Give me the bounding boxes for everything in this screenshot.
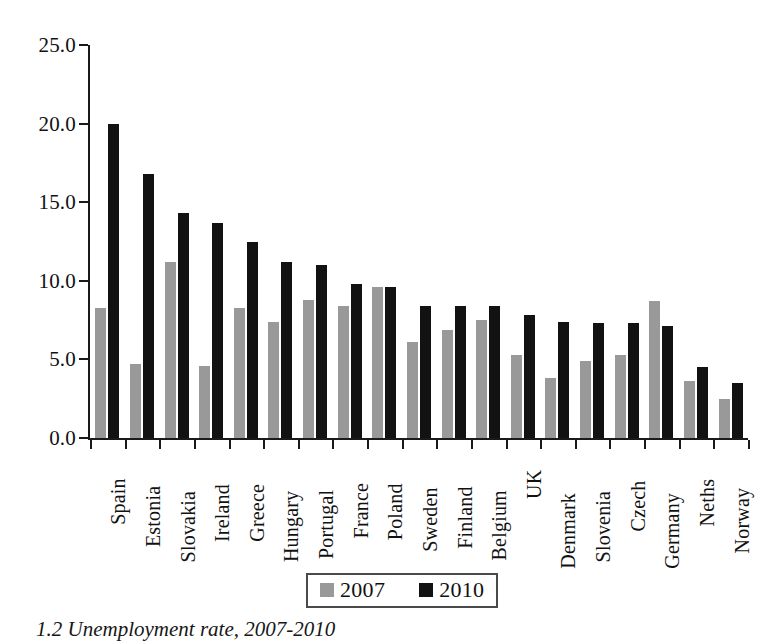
- legend-label-2010: 2010: [439, 578, 484, 602]
- bar-group: [298, 45, 333, 438]
- bar-group: [506, 45, 541, 438]
- bar-uk-2007: [511, 355, 522, 438]
- bar-finland-2010: [455, 306, 466, 438]
- x-tick-mark: [644, 440, 646, 449]
- bar-group: [125, 45, 160, 438]
- x-tick-slot: Neths: [679, 440, 714, 570]
- x-tick-slot: Portugal: [298, 440, 333, 570]
- bar-portugal-2010: [316, 265, 327, 438]
- x-tick-slot: France: [332, 440, 367, 570]
- x-tick-slot: Finland: [436, 440, 471, 570]
- x-tick-mark: [609, 440, 611, 449]
- x-tick-slot: Denmark: [540, 440, 575, 570]
- bar-group: [90, 45, 125, 438]
- y-tick-label: 5.0: [49, 344, 76, 374]
- bar-group: [332, 45, 367, 438]
- x-tick-slot: Germany: [644, 440, 679, 570]
- x-tick-mark: [402, 440, 404, 449]
- x-tick-slot: Sweden: [402, 440, 437, 570]
- figure-caption: 1.2 Unemployment rate, 2007-2010: [36, 616, 335, 642]
- bar-neths-2007: [684, 381, 695, 438]
- y-axis: 0.05.010.015.020.025.0: [0, 45, 88, 440]
- bar-czech-2007: [615, 355, 626, 438]
- x-tick-mark: [436, 440, 438, 449]
- x-axis: SpainEstoniaSlovakiaIrelandGreeceHungary…: [90, 440, 748, 570]
- bar-hungary-2007: [268, 322, 279, 438]
- bar-group: [194, 45, 229, 438]
- x-tick-slot: Ireland: [194, 440, 229, 570]
- bar-poland-2007: [372, 287, 383, 438]
- y-tick-mark: [79, 44, 88, 46]
- bar-group: [679, 45, 714, 438]
- x-tick-slot: Norway: [713, 440, 748, 570]
- y-tick-mark: [79, 437, 88, 439]
- x-tick-mark: [713, 440, 715, 449]
- bar-hungary-2010: [281, 262, 292, 438]
- bar-group: [471, 45, 506, 438]
- bar-group: [609, 45, 644, 438]
- x-tick-mark: [125, 440, 127, 449]
- bar-sweden-2007: [407, 342, 418, 438]
- legend-swatch-2010-icon: [419, 583, 433, 597]
- bar-spain-2010: [108, 124, 119, 438]
- y-tick-label: 10.0: [38, 266, 76, 296]
- bar-group: [263, 45, 298, 438]
- legend-label-2007: 2007: [340, 578, 385, 602]
- bar-greece-2010: [247, 242, 258, 439]
- bar-portugal-2007: [303, 300, 314, 438]
- x-tick-mark: [575, 440, 577, 449]
- legend-swatch-2007-icon: [320, 583, 334, 597]
- x-tick-mark: [229, 440, 231, 449]
- bar-france-2007: [338, 306, 349, 438]
- bar-slovakia-2010: [178, 213, 189, 438]
- bar-group: [436, 45, 471, 438]
- bar-greece-2007: [234, 308, 245, 438]
- bar-group: [713, 45, 748, 438]
- bar-denmark-2007: [545, 378, 556, 438]
- bar-group: [402, 45, 437, 438]
- x-tick-slot: Spain: [90, 440, 125, 570]
- x-tick-label-norway: Norway: [731, 418, 753, 486]
- x-tick-slot: Czech: [609, 440, 644, 570]
- x-tick-label-text: Norway: [731, 486, 753, 554]
- x-tick-mark: [194, 440, 196, 449]
- x-tick-slot: Greece: [229, 440, 264, 570]
- legend-item-2010: 2010: [419, 578, 484, 602]
- bar-belgium-2007: [476, 320, 487, 438]
- x-tick-slot: Slovakia: [159, 440, 194, 570]
- x-tick-slot: UK: [506, 440, 541, 570]
- bar-group: [229, 45, 264, 438]
- bar-group: [575, 45, 610, 438]
- x-tick-slot: Hungary: [263, 440, 298, 570]
- bar-estonia-2010: [143, 174, 154, 438]
- x-tick-mark: [506, 440, 508, 449]
- x-tick-mark: [748, 440, 750, 449]
- y-tick-mark: [79, 280, 88, 282]
- y-tick-label: 25.0: [38, 30, 76, 60]
- y-tick-mark: [79, 358, 88, 360]
- x-tick-mark: [679, 440, 681, 449]
- x-tick-slot: Poland: [367, 440, 402, 570]
- x-tick-mark: [90, 440, 92, 449]
- x-tick-slot: Belgium: [471, 440, 506, 570]
- bar-group: [644, 45, 679, 438]
- bar-czech-2010: [628, 323, 639, 438]
- bar-ireland-2010: [212, 223, 223, 438]
- bar-spain-2007: [95, 308, 106, 438]
- x-tick-slot: Estonia: [125, 440, 160, 570]
- bars-layer: [90, 45, 748, 438]
- bar-uk-2010: [524, 315, 535, 438]
- bar-group: [367, 45, 402, 438]
- y-tick-mark: [79, 201, 88, 203]
- bar-group: [159, 45, 194, 438]
- bar-ireland-2007: [199, 366, 210, 438]
- bar-germany-2007: [649, 301, 660, 438]
- chart-legend: 2007 2010: [306, 573, 498, 608]
- bar-slovakia-2007: [165, 262, 176, 438]
- legend-item-2007: 2007: [320, 578, 385, 602]
- bar-finland-2007: [442, 330, 453, 438]
- y-tick-mark: [79, 123, 88, 125]
- bar-france-2010: [351, 284, 362, 438]
- x-tick-mark: [159, 440, 161, 449]
